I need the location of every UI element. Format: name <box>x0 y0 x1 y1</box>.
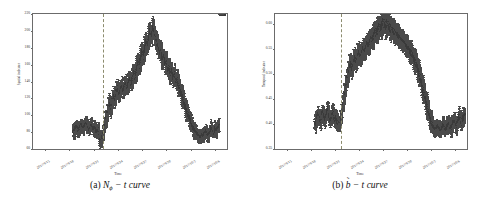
y-tick-mark <box>273 74 275 75</box>
error-bar-cap <box>463 122 465 123</box>
error-bar-cap <box>208 138 210 139</box>
error-bar-cap <box>83 133 85 134</box>
error-bar-cap <box>146 54 148 55</box>
error-bar-cap <box>216 136 218 137</box>
error-bar-cap <box>356 69 358 70</box>
x-tick-mark <box>166 149 167 151</box>
error-bar-cap <box>216 137 218 138</box>
error-bar-cap <box>128 91 130 92</box>
error-bar-cap <box>328 107 330 108</box>
x-tick-mark <box>383 149 384 151</box>
error-bar-cap <box>83 134 85 135</box>
error-bar-cap <box>377 43 379 44</box>
error-bar-cap <box>377 41 379 42</box>
error-bar-cap <box>451 133 453 134</box>
error-bar-cap <box>345 92 347 93</box>
error-bar-cap <box>144 61 146 62</box>
error-bar-cap <box>140 70 142 71</box>
error-bar-cap <box>369 53 371 54</box>
error-bar-cap <box>456 135 458 136</box>
error-bar-cap <box>382 35 384 36</box>
y-tick-mark <box>273 124 275 125</box>
error-bar-cap <box>105 127 107 128</box>
error-bar-cap <box>344 103 346 104</box>
error-bar-cap <box>183 93 185 94</box>
x-tick-mark <box>45 149 46 151</box>
error-bar-cap <box>427 98 429 99</box>
error-bar-cap <box>461 127 463 128</box>
panel-a-caption: (a) Nϕ − t curve <box>0 180 240 191</box>
error-bar-cap <box>451 135 453 136</box>
x-tick-label: 2017/9/15 <box>279 160 293 170</box>
error-bar-cap <box>136 76 138 77</box>
error-bar-cap <box>452 130 454 131</box>
error-bar-cap <box>348 82 350 83</box>
error-bar-cap <box>345 90 347 91</box>
error-bar-cap <box>208 139 210 140</box>
x-tick-mark <box>431 149 432 151</box>
error-bar-cap <box>320 130 322 131</box>
error-bar-cap <box>434 137 436 138</box>
x-tick-label: 2017/10/3 <box>423 160 437 170</box>
x-tick-mark <box>335 149 336 151</box>
error-bar-cap <box>428 102 430 103</box>
error-bar-cap <box>369 50 371 51</box>
error-bar-cap <box>456 134 458 135</box>
x-tick-mark <box>215 149 216 151</box>
x-tick-label: 2017/9/27 <box>375 160 389 170</box>
error-bar-cap <box>373 46 375 47</box>
error-bar-cap <box>418 62 420 63</box>
error-bar-cap <box>423 81 425 82</box>
x-tick-mark <box>142 149 143 151</box>
error-bar-cap <box>315 129 317 130</box>
error-bar-cap <box>183 96 185 97</box>
x-tick-mark <box>191 149 192 151</box>
error-bar-cap <box>179 79 181 80</box>
error-bar-cap <box>381 37 383 38</box>
data-layer-a <box>33 14 227 149</box>
error-bar-cap <box>166 55 168 56</box>
panel-b: Temporal indicator Time 0.350.400.450.50… <box>240 0 480 210</box>
data-layer-b <box>275 14 467 149</box>
error-bar-cap <box>369 52 371 53</box>
error-bar-cap <box>136 79 138 80</box>
error-bar-cap <box>463 121 465 122</box>
error-bar-cap <box>345 91 347 92</box>
error-bar-cap <box>315 127 317 128</box>
error-bar-cap <box>329 127 331 128</box>
error-bar-cap <box>324 125 326 126</box>
y-tick-mark <box>273 24 275 25</box>
caption-b-tilde: ˜ <box>347 176 350 185</box>
data-point <box>219 124 221 126</box>
error-bar-cap <box>347 87 349 88</box>
y-tick-mark <box>31 132 33 133</box>
error-bar-cap <box>140 69 142 70</box>
y-tick-mark <box>273 49 275 50</box>
error-bar-cap <box>114 108 116 109</box>
error-bar-cap <box>458 106 460 107</box>
error-bar-cap <box>327 105 329 106</box>
error-bar-cap <box>382 34 384 35</box>
y-axis-label-a: Spatial indicator <box>17 63 21 85</box>
error-bar-cap <box>386 36 388 37</box>
error-bar-cap <box>132 87 134 88</box>
error-bar-cap <box>203 140 205 141</box>
error-bar-cap <box>345 93 347 94</box>
y-tick-label: 100 <box>25 113 30 117</box>
x-tick-label: 2017/9/18 <box>61 160 75 170</box>
caption-a-rest: − t curve <box>115 180 150 190</box>
x-tick-label: 2017/10/6 <box>447 160 461 170</box>
y-tick-label: 120 <box>25 97 30 101</box>
error-bar-cap <box>136 80 138 81</box>
error-bar-cap <box>207 142 209 143</box>
error-bar-cap <box>144 59 146 60</box>
x-tick-label: 2017/9/27 <box>134 160 148 170</box>
error-bar-cap <box>392 18 394 19</box>
error-bar-cap <box>153 23 155 24</box>
x-tick-mark <box>455 149 456 151</box>
x-tick-label: 2017/9/21 <box>327 160 341 170</box>
error-bar-cap <box>145 55 147 56</box>
y-tick-label: 0.40 <box>266 122 272 126</box>
error-bar-cap <box>99 148 101 149</box>
error-bar-cap <box>456 130 458 131</box>
